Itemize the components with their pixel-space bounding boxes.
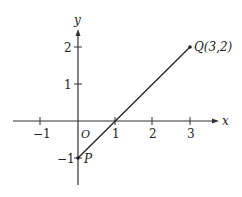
point-p-label: P — [83, 152, 93, 166]
point-p-marker — [76, 156, 80, 160]
x-tick-label-neg1: −1 — [33, 127, 51, 141]
x-axis-label: x — [222, 114, 229, 128]
y-tick-label-1: 1 — [64, 78, 72, 92]
y-axis-arrow-icon — [76, 29, 81, 36]
x-tick-label-3: 3 — [187, 127, 195, 141]
y-tick-label-neg1: −1 — [57, 152, 75, 166]
x-tick-label-2: 2 — [149, 127, 157, 141]
x-axis-arrow-icon — [212, 119, 219, 124]
point-q-label: Q(3,2) — [194, 40, 233, 54]
coordinate-plane: x y −1 1 2 3 2 1 −1 O P Q(3,2) — [0, 0, 242, 197]
origin-label: O — [81, 128, 90, 141]
x-tick-label-1: 1 — [112, 127, 120, 141]
segment-pq — [78, 47, 190, 158]
point-q-marker — [188, 45, 192, 49]
y-axis-label: y — [73, 13, 81, 27]
point-q-label-text: Q(3,2) — [194, 40, 233, 54]
y-tick-label-2: 2 — [64, 41, 72, 55]
